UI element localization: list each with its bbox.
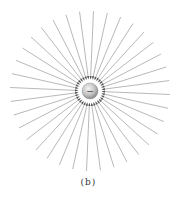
arrowhead-icon bbox=[76, 96, 80, 99]
field-line bbox=[100, 100, 149, 145]
arrowhead-icon bbox=[94, 77, 96, 81]
field-line bbox=[103, 94, 168, 109]
minus-sign-icon: − bbox=[86, 86, 94, 96]
field-line bbox=[36, 101, 81, 150]
field-line bbox=[95, 17, 121, 79]
arrowhead-icon bbox=[93, 102, 95, 106]
arrowhead-icon bbox=[83, 102, 85, 106]
arrowhead-icon bbox=[101, 95, 105, 97]
arrowhead-icon bbox=[91, 102, 93, 106]
field-line bbox=[66, 15, 86, 79]
field-line bbox=[94, 103, 114, 167]
arrowhead-icon bbox=[92, 76, 94, 80]
field-line bbox=[10, 88, 77, 91]
arrowhead-icon bbox=[76, 84, 80, 86]
arrowhead-icon bbox=[75, 87, 79, 89]
field-line bbox=[102, 96, 164, 122]
arrowhead-icon bbox=[86, 102, 88, 106]
arrowhead-icon bbox=[95, 101, 98, 105]
arrowhead-icon bbox=[96, 78, 99, 82]
arrowhead-icon bbox=[101, 91, 105, 93]
field-line-diagram: − bbox=[0, 0, 177, 203]
field-line bbox=[93, 13, 108, 78]
arrowhead-icon bbox=[88, 102, 90, 106]
field-line bbox=[11, 93, 77, 102]
arrowhead-icon bbox=[77, 82, 81, 85]
arrowhead-icon bbox=[101, 88, 105, 90]
field-line bbox=[59, 103, 85, 165]
arrowhead-icon bbox=[82, 77, 85, 81]
field-line bbox=[99, 32, 144, 81]
arrowhead-icon bbox=[100, 97, 104, 100]
field-line bbox=[31, 37, 80, 82]
arrowhead-icon bbox=[75, 92, 79, 94]
arrowhead-icon bbox=[101, 93, 105, 95]
arrowhead-icon bbox=[75, 89, 79, 91]
arrowhead-icon bbox=[75, 94, 79, 96]
arrowhead-icon bbox=[101, 85, 105, 87]
field-line bbox=[103, 81, 169, 90]
arrowhead-icon bbox=[100, 83, 104, 86]
field-line bbox=[16, 60, 78, 86]
field-line bbox=[92, 104, 101, 170]
field-line bbox=[102, 67, 166, 87]
figure-caption: (b) bbox=[0, 177, 177, 187]
field-line bbox=[103, 92, 170, 95]
field-line bbox=[12, 74, 77, 89]
arrowhead-icon bbox=[87, 76, 89, 80]
field-line bbox=[14, 95, 78, 115]
arrowhead-icon bbox=[81, 101, 84, 105]
field-line bbox=[80, 12, 89, 78]
field-line bbox=[73, 104, 88, 169]
arrowhead-icon bbox=[84, 76, 86, 80]
field-line bbox=[87, 104, 90, 171]
field-line bbox=[91, 11, 94, 78]
arrowhead-icon bbox=[90, 76, 92, 80]
